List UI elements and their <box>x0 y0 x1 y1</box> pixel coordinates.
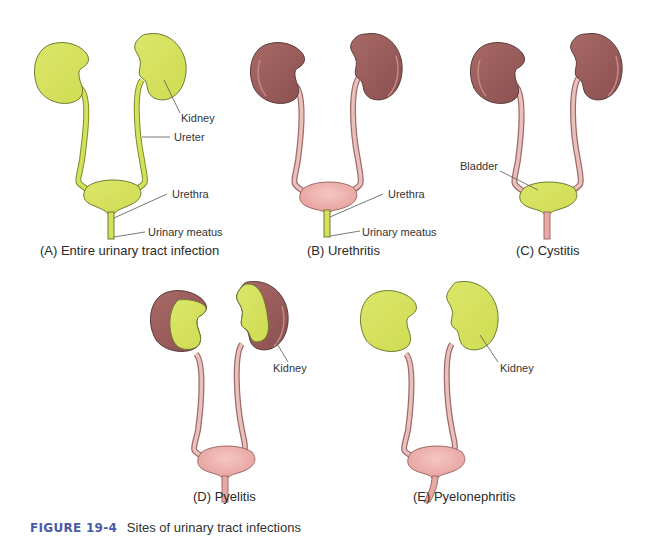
kidney-right <box>135 33 186 99</box>
panel-d-pyelitis: Kidney (D) Pyelitis <box>130 270 330 510</box>
panel-b-urethritis: Urethra Urinary meatus (B) Urethritis <box>200 0 450 270</box>
renal-pelvis-left <box>170 300 206 350</box>
bladder <box>300 182 357 212</box>
kidney-left <box>360 291 416 352</box>
kidney-left <box>34 43 88 104</box>
caption-b: (B) Urethritis <box>307 243 380 258</box>
panel-a-entire-urinary-tract: Kidney Ureter Urethra Urinary meatus (A)… <box>0 0 220 270</box>
panel-e-pyelonephritis: Kidney (E) Pyelonephritis <box>340 270 560 510</box>
urinary-tract-diagram-d <box>130 270 330 510</box>
urinary-tract-diagram-e <box>340 270 560 510</box>
urethra <box>544 212 550 239</box>
caption-d: (D) Pyelitis <box>193 489 256 504</box>
caption-e: (E) Pyelonephritis <box>413 489 516 504</box>
urethra <box>108 212 114 239</box>
urethra <box>324 210 330 237</box>
bladder <box>198 446 255 478</box>
bladder <box>520 182 577 214</box>
urinary-tract-diagram-c <box>420 0 653 270</box>
caption-c: (C) Cystitis <box>516 243 580 258</box>
kidney-right <box>571 33 623 99</box>
panel-c-cystitis: Bladder (C) Cystitis <box>420 0 653 270</box>
label-kidney: Kidney <box>273 362 307 374</box>
bladder <box>84 180 141 214</box>
label-kidney: Kidney <box>500 362 534 374</box>
label-bladder: Bladder <box>460 160 498 172</box>
figure-caption: FIGURE 19-4 Sites of urinary tract infec… <box>30 520 301 535</box>
kidney-right <box>447 281 498 349</box>
bladder <box>408 446 465 478</box>
figure-number: FIGURE 19-4 <box>30 521 117 535</box>
kidney-right <box>351 33 403 99</box>
figure-title: Sites of urinary tract infections <box>127 520 301 535</box>
caption-a: (A) Entire urinary tract infection <box>40 243 219 258</box>
